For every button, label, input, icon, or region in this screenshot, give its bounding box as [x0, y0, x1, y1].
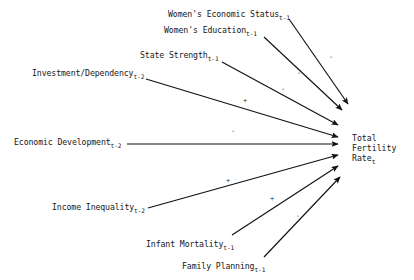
node-subscript-womens-economic-status: t-1	[279, 14, 290, 21]
node-subscript-family-planning: t-1	[254, 266, 265, 273]
edge-sign-family-planning: -	[296, 213, 300, 220]
edge-sign-state-strength: -	[281, 86, 285, 93]
node-label-investment-dependency: Investment/Dependencyt-2	[32, 69, 144, 81]
node-label-womens-education: Women's Educationt-1	[164, 26, 257, 38]
node-label-text-infant-mortality: Infant Mortality	[146, 239, 223, 249]
arrow-income-inequality	[148, 155, 338, 208]
target-line-2: Fertility	[352, 143, 396, 153]
target-subscript: t	[372, 158, 376, 165]
edge-sign-income-inequality: +	[226, 178, 230, 185]
edge-sign-investment-dependency: +	[243, 98, 247, 105]
node-subscript-investment-dependency: t-2	[133, 73, 144, 80]
target-node-total-fertility-rate: Total Fertility Ratet	[352, 133, 396, 167]
node-label-text-state-strength: State Strength	[140, 50, 208, 60]
edge-sign-womens-education: -	[297, 70, 301, 77]
edge-sign-infant-mortality: +	[270, 196, 274, 203]
node-label-womens-economic-status: Women's Economic Statust-1	[168, 10, 290, 22]
node-label-text-womens-economic-status: Women's Economic Status	[168, 9, 279, 19]
target-line-3-text: Rate	[352, 153, 372, 163]
arrow-womens-economic-status	[289, 19, 348, 104]
node-label-family-planning: Family Planningt-1	[182, 262, 265, 274]
node-label-infant-mortality: Infant Mortalityt-1	[146, 240, 234, 252]
target-line-1: Total	[352, 133, 396, 143]
target-line-3: Ratet	[352, 153, 396, 167]
node-label-state-strength: State Strengtht-1	[140, 51, 219, 63]
node-subscript-womens-education: t-1	[246, 30, 257, 37]
node-subscript-infant-mortality: t-1	[223, 244, 234, 251]
arrow-infant-mortality	[232, 166, 338, 235]
arrow-state-strength	[222, 62, 338, 125]
node-label-text-income-inequality: Income Inequality	[52, 202, 134, 212]
node-label-income-inequality: Income Inequalityt-2	[52, 203, 145, 215]
edge-sign-economic-development: -	[231, 128, 235, 135]
node-subscript-income-inequality: t-2	[134, 207, 145, 214]
node-label-text-investment-dependency: Investment/Dependency	[32, 68, 133, 78]
node-subscript-state-strength: t-1	[208, 55, 219, 62]
node-label-text-womens-education: Women's Education	[164, 25, 246, 35]
path-diagram-figure: Women's Economic Statust-1Women's Educat…	[0, 0, 414, 280]
edge-sign-womens-economic-status: -	[329, 54, 333, 61]
node-label-text-family-planning: Family Planning	[182, 261, 254, 271]
node-subscript-economic-development: t-2	[111, 142, 122, 149]
node-label-economic-development: Economic Developmentt-2	[14, 138, 121, 150]
node-label-text-economic-development: Economic Development	[14, 137, 111, 147]
arrow-investment-dependency	[146, 79, 338, 137]
arrow-womens-education	[264, 37, 342, 110]
